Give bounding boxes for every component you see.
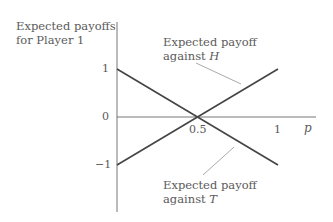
annotation-T-var: T [209,192,217,206]
annotation-against-T: Expected payoff against T [163,178,257,206]
annotation-T-line1: Expected payoff [163,178,257,192]
annotation-T-line2: against T [163,192,257,206]
annotation-against-H: Expected payoff against H [163,35,257,63]
x-tick-half: 0.5 [189,123,207,136]
annotation-H-prefix: against [163,49,209,63]
leader-H [196,63,241,84]
y-tick-neg1: −1 [95,158,111,171]
annotation-H-line2: against H [163,49,257,63]
y-axis-title: Expected payoffs for Player 1 [16,19,116,47]
y-tick-0: 0 [102,110,109,123]
y-tick-1: 1 [102,62,109,75]
leader-T [203,147,234,175]
annotation-H-line1: Expected payoff [163,35,257,49]
annotation-T-prefix: against [163,192,209,206]
x-axis-label: p [304,121,312,135]
annotation-H-var: H [209,49,219,63]
x-tick-one: 1 [274,123,281,136]
y-axis-title-line2: for Player 1 [16,33,116,47]
y-axis-title-line1: Expected payoffs [16,19,116,33]
